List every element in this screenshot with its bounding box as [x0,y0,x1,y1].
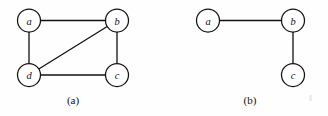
panel-b-node-c: c [282,64,305,87]
panel-a-caption: (a) [67,94,80,107]
panel-b-node-a: a [197,9,220,32]
panel-a-node-c-label: c [115,70,120,81]
panel-b-node-c-label: c [291,70,296,81]
panel-a-node-a: a [18,9,41,32]
panel-b-node-a-label: a [205,16,210,27]
panel-b-caption: (b) [244,94,257,107]
figure-root: abcdabc (a)(b) [0,0,328,116]
captions-layer: (a)(b) [67,94,257,107]
panel-a-node-d-label: d [26,70,32,81]
graph-figure-canvas: abcdabc (a)(b) [0,0,328,116]
panel-a-node-a-label: a [26,16,31,27]
scan-artifact-mark [309,95,312,101]
panel-a-node-d: d [18,64,41,87]
edges-layer [29,21,293,76]
panel-a-node-b: b [106,9,129,32]
panel-b-node-b: b [282,9,305,32]
panel-b-node-b-label: b [290,16,295,27]
panel-a-edge-b-d [39,27,107,69]
panel-a-node-b-label: b [114,16,119,27]
panel-a-node-c: c [106,64,129,87]
